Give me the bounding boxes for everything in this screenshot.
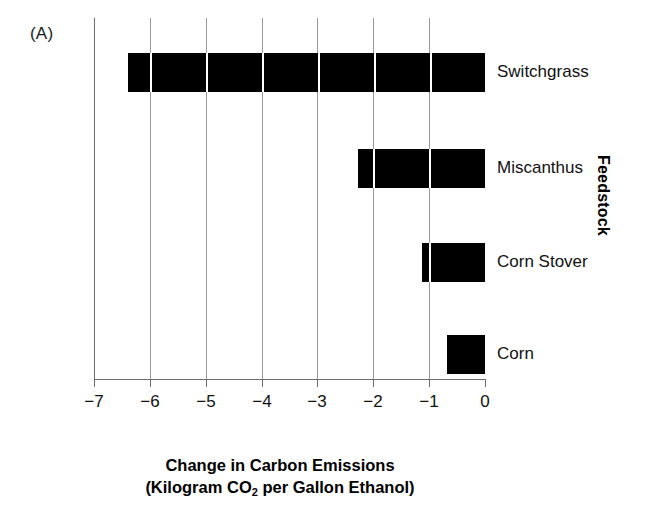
x-tick	[94, 379, 95, 387]
gridline-seam	[429, 149, 431, 188]
x-axis-title: Change in Carbon Emissions (Kilogram CO2…	[0, 455, 560, 499]
category-label-switchgrass: Switchgrass	[497, 62, 589, 82]
x-tick	[485, 379, 486, 387]
gridline-seam	[318, 53, 320, 92]
gridline-seam	[150, 53, 152, 92]
x-tick-label: −3	[307, 392, 326, 412]
x-axis-line	[94, 379, 485, 380]
bar-miscanthus	[358, 149, 485, 188]
plot-area	[94, 18, 485, 379]
x-tick	[150, 379, 151, 387]
x-tick-label: −7	[84, 392, 103, 412]
x-axis-title-unit-suffix: per Gallon Ethanol)	[258, 478, 415, 496]
x-tick	[317, 379, 318, 387]
panel-label: (A)	[30, 24, 53, 44]
x-tick	[262, 379, 263, 387]
x-axis-title-unit-subscript: 2	[252, 486, 258, 498]
gridline-seam	[374, 53, 376, 92]
figure-panel-a: (A) −7−6−5−4−3−2−10 SwitchgrassMiscanthu…	[0, 0, 661, 510]
x-tick	[373, 379, 374, 387]
x-tick-label: −6	[140, 392, 159, 412]
x-axis-title-line2: (Kilogram CO2 per Gallon Ethanol)	[0, 477, 560, 499]
gridline-seam	[430, 53, 432, 92]
category-label-miscanthus: Miscanthus	[497, 158, 583, 178]
category-label-corn: Corn	[497, 344, 534, 364]
bar-switchgrass	[128, 53, 485, 92]
gridline-seam	[429, 243, 431, 282]
x-tick-label: 0	[480, 392, 489, 412]
x-tick-label: −5	[196, 392, 215, 412]
x-axis-title-line1: Change in Carbon Emissions	[0, 455, 560, 477]
bars-layer	[94, 18, 485, 379]
gridline-seam	[373, 149, 375, 188]
x-tick	[429, 379, 430, 387]
x-tick-label: −4	[252, 392, 271, 412]
x-tick	[206, 379, 207, 387]
y-axis-line	[94, 18, 95, 379]
y-axis-title: Feedstock	[594, 155, 612, 236]
bar-corn-stover	[422, 243, 485, 282]
gridline-seam	[262, 53, 264, 92]
gridline-seam	[206, 53, 208, 92]
bar-corn	[447, 335, 485, 374]
category-label-corn-stover: Corn Stover	[497, 252, 588, 272]
x-tick-label: −1	[419, 392, 438, 412]
x-tick-label: −2	[363, 392, 382, 412]
x-axis-title-unit-prefix: (Kilogram CO	[145, 478, 251, 496]
